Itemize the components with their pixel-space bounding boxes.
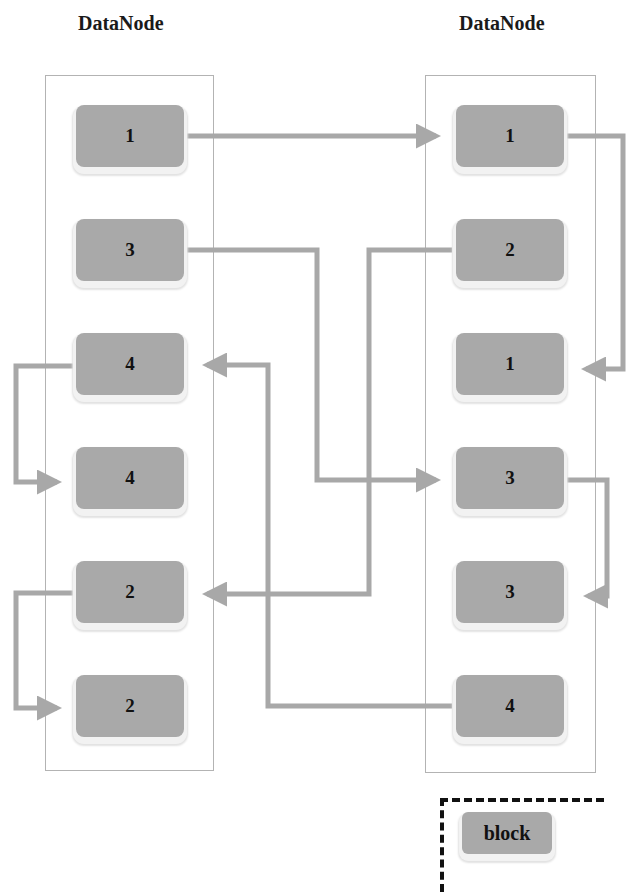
arrow-right1-loop (566, 136, 623, 369)
left-block-3: 4 (76, 333, 184, 395)
arrow-right2-to-left2 (207, 250, 452, 594)
right-block-5: 3 (456, 561, 564, 623)
arrow-right4-to-left4 (207, 365, 452, 706)
arrow-right3-loop (566, 480, 607, 596)
right-block-1: 1 (456, 105, 564, 167)
left-block-6: 2 (76, 675, 184, 737)
right-block-6: 4 (456, 675, 564, 737)
arrow-left2-loop (16, 593, 74, 708)
left-block-5: 2 (76, 561, 184, 623)
arrow-left4-loop (16, 366, 74, 482)
right-block-2: 2 (456, 219, 564, 281)
right-block-4: 3 (456, 447, 564, 509)
right-block-3: 1 (456, 333, 564, 395)
left-block-2: 3 (76, 219, 184, 281)
left-block-4: 4 (76, 447, 184, 509)
left-block-1: 1 (76, 105, 184, 167)
legend-block: block (462, 812, 552, 854)
